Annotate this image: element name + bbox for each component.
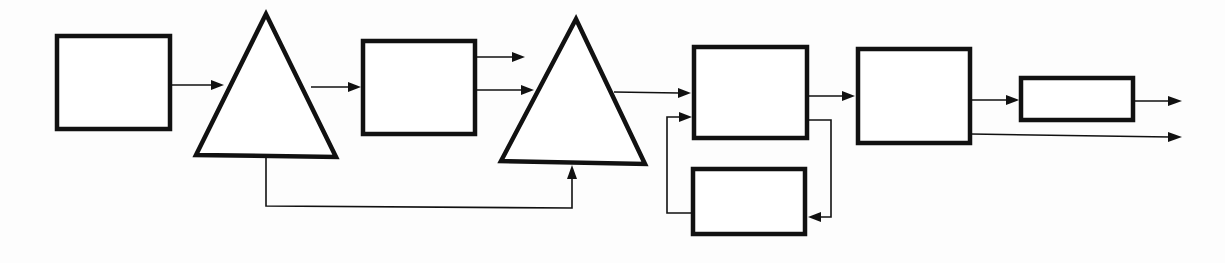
block-box-6 bbox=[1021, 78, 1133, 120]
arrowhead-right-icon bbox=[512, 52, 525, 62]
arrowhead-right-icon bbox=[842, 91, 855, 101]
diagram-svg bbox=[0, 0, 1225, 263]
edge-triangle1-feedforward-to-triangle2 bbox=[266, 158, 572, 208]
block-diagram-canvas bbox=[0, 0, 1225, 263]
edge-box4-to-box3-loop bbox=[667, 117, 692, 213]
arrowhead-right-icon bbox=[678, 88, 691, 98]
arrowhead-right-icon bbox=[679, 112, 692, 122]
arrowhead-right-icon bbox=[1168, 132, 1182, 142]
blocks bbox=[57, 14, 1133, 234]
block-box-3 bbox=[694, 47, 807, 138]
arrowhead-right-icon bbox=[211, 80, 224, 90]
block-box-4 bbox=[693, 169, 805, 234]
arrowhead-right-icon bbox=[521, 85, 534, 95]
edge-box5-output-bottom bbox=[971, 134, 1170, 137]
arrowhead-up-icon bbox=[567, 165, 577, 179]
block-box-5 bbox=[858, 49, 970, 143]
edge-box3-to-box4-loop bbox=[808, 120, 831, 217]
block-box-1 bbox=[57, 36, 170, 129]
block-box-2 bbox=[363, 41, 475, 134]
arrowhead-right-icon bbox=[1168, 96, 1182, 106]
arrowhead-right-icon bbox=[1006, 95, 1019, 105]
arrowhead-left-icon bbox=[808, 212, 821, 222]
arrowhead-right-icon bbox=[348, 82, 361, 92]
edge-triangle2-to-box3 bbox=[614, 92, 679, 93]
